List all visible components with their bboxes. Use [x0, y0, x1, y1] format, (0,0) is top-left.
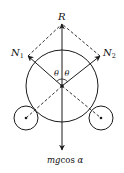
- right-contact-dashed-line: [62, 86, 101, 118]
- theta-right-label: θ: [65, 69, 70, 78]
- theta-left-label: θ: [54, 69, 59, 78]
- center-point: [60, 84, 64, 88]
- N1-label: N1: [10, 47, 24, 60]
- force-diagram: R N1 N2 θ θ mgcos α: [0, 0, 124, 173]
- parallelogram-dashed-right: [62, 24, 100, 56]
- parallelogram-dashed-left: [28, 24, 62, 56]
- weight-label: mgcos α: [47, 155, 83, 165]
- N2-label: N2: [102, 47, 116, 60]
- R-label: R: [57, 11, 66, 22]
- left-contact-dashed-line: [26, 86, 62, 118]
